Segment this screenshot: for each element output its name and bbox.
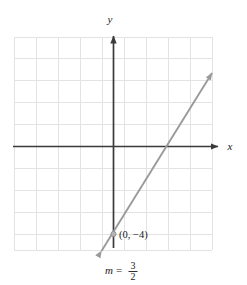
y-axis-label: y [107, 13, 113, 25]
slope-numerator: 3 [131, 260, 136, 271]
slope-equals-sign: = [116, 264, 122, 276]
graph-figure: y x (0, −4) m = 3 2 [0, 0, 247, 285]
plotted-line [102, 73, 213, 251]
x-axis-label: x [227, 140, 233, 152]
y-intercept-point-marker [111, 231, 116, 236]
y-intercept-label: (0, −4) [119, 229, 148, 241]
slope-annotation: m = 3 2 [105, 260, 138, 282]
plotted-line-group [102, 73, 213, 251]
slope-denominator: 2 [131, 271, 136, 282]
coordinate-plane-svg: y x (0, −4) m = 3 2 [0, 0, 247, 285]
axes [13, 36, 218, 248]
slope-variable: m [105, 264, 113, 276]
